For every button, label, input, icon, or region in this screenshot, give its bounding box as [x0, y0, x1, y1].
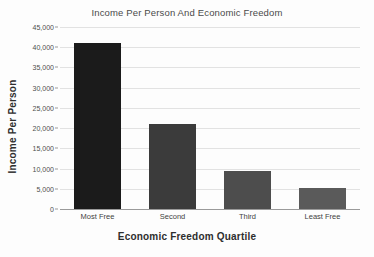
bar — [299, 188, 346, 209]
y-tick-mark — [55, 107, 58, 108]
bar — [74, 43, 121, 209]
y-tick-mark — [55, 87, 58, 88]
bar-chart-figure: Income Per Person And Economic Freedom I… — [0, 0, 374, 257]
y-tick-label: 25,000 — [33, 104, 54, 111]
x-tick-label: Most Free — [81, 212, 115, 221]
x-tick-label: Second — [160, 212, 185, 221]
y-tick-label: 45,000 — [33, 24, 54, 31]
y-tick-mark — [55, 168, 58, 169]
y-tick-label: 10,000 — [33, 165, 54, 172]
x-axis-tick-labels: Most FreeSecondThirdLeast Free — [60, 212, 360, 226]
y-tick-label: 40,000 — [33, 44, 54, 51]
bar — [224, 171, 271, 209]
y-tick-label: 20,000 — [33, 125, 54, 132]
y-tick-label: 30,000 — [33, 84, 54, 91]
y-tick-label: 0 — [50, 206, 54, 213]
y-tick-mark — [55, 128, 58, 129]
y-tick-mark — [55, 47, 58, 48]
y-tick-mark — [55, 27, 58, 28]
y-tick-label: 35,000 — [33, 64, 54, 71]
chart-title: Income Per Person And Economic Freedom — [0, 7, 374, 18]
x-tick-label: Least Free — [305, 212, 341, 221]
gridline — [60, 27, 360, 28]
y-tick-label: 5,000 — [36, 185, 54, 192]
y-tick-mark — [55, 67, 58, 68]
y-tick-mark — [55, 148, 58, 149]
axis-baseline — [60, 209, 360, 210]
y-tick-mark — [55, 188, 58, 189]
x-axis-title: Economic Freedom Quartile — [0, 231, 374, 242]
y-axis-tick-labels: 45,00040,00035,00030,00025,00020,00015,0… — [0, 27, 58, 209]
plot-area — [60, 27, 360, 209]
bar — [149, 124, 196, 209]
y-tick-label: 15,000 — [33, 145, 54, 152]
x-tick-label: Third — [239, 212, 256, 221]
y-tick-mark — [55, 209, 58, 210]
